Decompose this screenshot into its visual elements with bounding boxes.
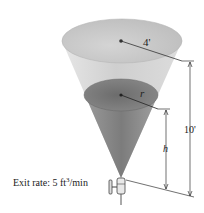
water-height-label: h [163, 143, 168, 154]
exit-rate-label: Exit rate: 5 ft3/min [13, 176, 88, 188]
water-radius-label: r [140, 87, 145, 99]
conical-tank-diagram: 4' r 10' h Exit rate: 5 ft3/min [0, 0, 204, 213]
total-height-label: 10' [184, 124, 196, 135]
valve-icon [109, 178, 125, 205]
top-radius-label: 4' [143, 36, 151, 48]
